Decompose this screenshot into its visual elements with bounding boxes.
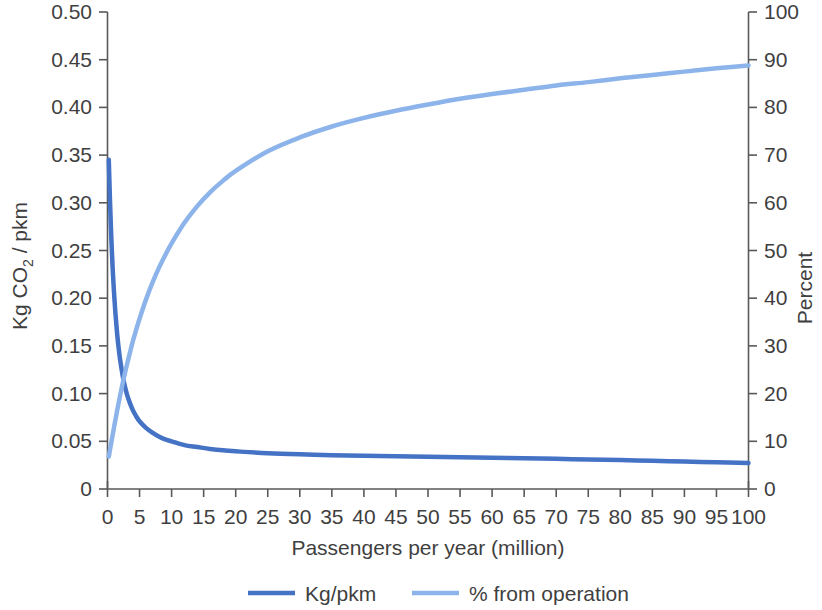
y2-tick-label: 10 (764, 429, 787, 452)
x-tick-label: 50 (416, 505, 439, 528)
y2-tick-label: 60 (764, 191, 787, 214)
x-tick-label: 30 (288, 505, 311, 528)
x-tick-label: 25 (256, 505, 279, 528)
x-tick-label: 5 (134, 505, 146, 528)
x-tick-label: 80 (609, 505, 632, 528)
x-axis-title: Passengers per year (million) (291, 536, 564, 559)
x-tick-label: 45 (384, 505, 407, 528)
x-tick-label: 35 (320, 505, 343, 528)
x-tick-label: 70 (545, 505, 568, 528)
x-tick-label: 90 (673, 505, 696, 528)
x-tick-label: 55 (448, 505, 471, 528)
y-tick-label: 0.25 (51, 239, 92, 262)
y2-tick-label: 0 (764, 477, 776, 500)
y2-tick-label: 70 (764, 143, 787, 166)
legend-label-kg-pkm: Kg/pkm (305, 582, 376, 605)
y2-tick-label: 20 (764, 382, 787, 405)
y-tick-label: 0.15 (51, 334, 92, 357)
y2-tick-label: 50 (764, 239, 787, 262)
y-tick-label: 0.20 (51, 286, 92, 309)
x-tick-label: 95 (705, 505, 728, 528)
chart-background (0, 0, 822, 610)
legend-label-pct-operation: % from operation (469, 582, 629, 605)
x-tick-label: 100 (731, 505, 766, 528)
y2-tick-label: 80 (764, 95, 787, 118)
y-tick-label: 0.05 (51, 429, 92, 452)
y-axis-title-post: / pkm (8, 202, 31, 259)
y-tick-label: 0.35 (51, 143, 92, 166)
y-tick-label: 0.50 (51, 0, 92, 23)
chart-figure: 00.050.100.150.200.250.300.350.400.450.5… (0, 0, 822, 610)
y-axis-title-sub: 2 (20, 259, 36, 267)
x-tick-label: 0 (102, 505, 114, 528)
y-tick-label: 0 (80, 477, 92, 500)
x-tick-label: 15 (192, 505, 215, 528)
y-tick-label: 0.30 (51, 191, 92, 214)
y2-tick-label: 30 (764, 334, 787, 357)
x-tick-label: 65 (512, 505, 535, 528)
x-tick-label: 75 (577, 505, 600, 528)
y2-axis-title: Percent (793, 252, 816, 325)
y-tick-label: 0.45 (51, 48, 92, 71)
chart-svg: 00.050.100.150.200.250.300.350.400.450.5… (0, 0, 822, 610)
y2-tick-label: 90 (764, 48, 787, 71)
y-tick-label: 0.40 (51, 95, 92, 118)
y-axis-title-pre: Kg CO (8, 267, 31, 330)
y2-tick-label: 40 (764, 286, 787, 309)
x-tick-label: 85 (641, 505, 664, 528)
x-tick-label: 10 (160, 505, 183, 528)
y-tick-label: 0.10 (51, 382, 92, 405)
x-tick-label: 60 (480, 505, 503, 528)
x-tick-label: 40 (352, 505, 375, 528)
y2-tick-label: 100 (764, 0, 799, 23)
x-tick-label: 20 (224, 505, 247, 528)
